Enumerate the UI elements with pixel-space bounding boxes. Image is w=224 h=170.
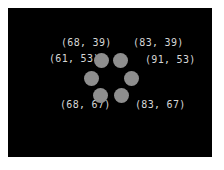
point-label: (83, 67) [135, 99, 186, 110]
circle-dot [94, 53, 109, 68]
drawing-canvas [8, 8, 212, 157]
point-label: (91, 53) [145, 54, 196, 65]
point-label: (68, 39) [61, 37, 112, 48]
circle-dot [93, 88, 108, 103]
circle-dot [124, 71, 139, 86]
circle-dot [114, 88, 129, 103]
circle-dot [113, 53, 128, 68]
point-label: (61, 53) [49, 53, 100, 64]
circle-dot [84, 71, 99, 86]
point-label: (83, 39) [133, 37, 184, 48]
